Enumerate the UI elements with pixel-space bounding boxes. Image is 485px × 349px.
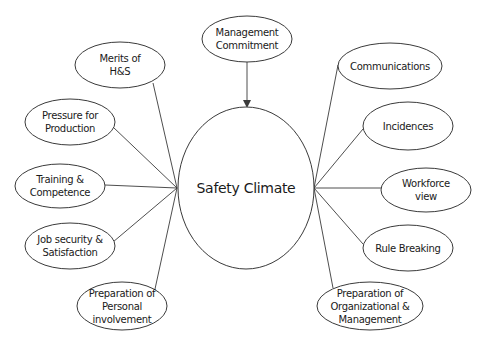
node-training-competence-label: Training & Competence [15,164,105,208]
node-rule-breaking-label: Rule Breaking [363,225,453,271]
connector-preparation-of-personal-involvement [155,188,177,289]
node-merits-of-h-s-label: Merits of H&S [75,42,165,88]
node-preparation-of-organizational-management-label: Preparation of Organizational & Manageme… [317,282,423,330]
connector-rule-breaking [314,188,363,244]
connector-preparation-of-organizational-management [314,188,333,288]
connector-communications [314,65,338,188]
connector-pressure-for-production [113,127,177,188]
connector-merits-of-h-s [153,83,177,188]
node-preparation-of-personal-involvement-label: Preparation of Personal involvement [77,282,167,330]
node-job-security-satisfaction-label: Job security & Satisfaction [25,223,115,269]
connector-incidences [314,129,363,188]
node-incidences-label: Incidences [363,102,453,150]
node-management-commitment-label: Management Commitment [202,16,292,62]
connector-training-competence [105,185,177,188]
node-workforce-view-label: Workforce view [381,168,471,212]
node-communications-label: Communications [338,43,442,89]
node-pressure-for-production-label: Pressure for Production [25,99,115,145]
safety-climate-label: Safety Climate [178,107,314,269]
